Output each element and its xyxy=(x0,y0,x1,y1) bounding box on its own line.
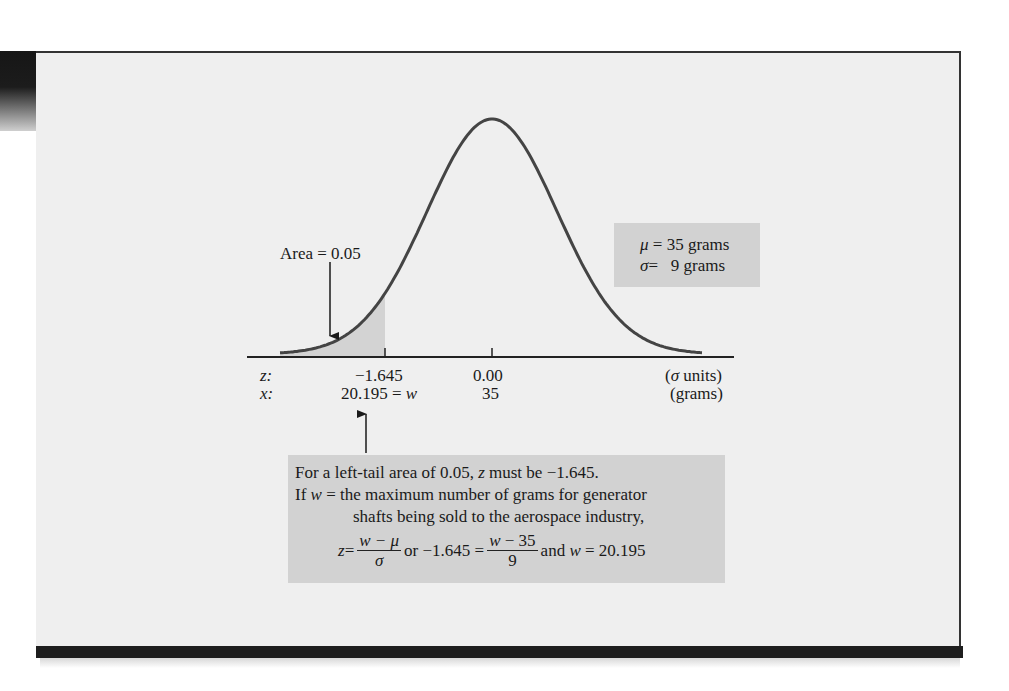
x-row-label: x: xyxy=(260,384,273,404)
fraction-general: w − μ σ xyxy=(357,532,401,571)
x-tick-label-2: 35 xyxy=(482,384,499,404)
note-line-1: For a left-tail area of 0.05, z must be … xyxy=(295,462,725,484)
fraction-specific: w − 35 9 xyxy=(487,532,537,571)
normal-curve-chart xyxy=(0,0,1009,691)
frac2-numerator: w − 35 xyxy=(487,532,537,551)
parameter-box: μ = 35 grams σ= 9 grams xyxy=(614,223,760,287)
z-formula: z = w − μ σ or −1.645 = w − 35 9 and w =… xyxy=(295,528,725,574)
left-tail-shaded-area xyxy=(280,293,385,356)
z-tick-label-2: 0.00 xyxy=(473,366,503,386)
note-line-2: If w = the maximum number of grams for g… xyxy=(295,484,725,506)
z-tick-label-1: −1.645 xyxy=(355,366,403,386)
mu-line: μ = 35 grams xyxy=(640,234,760,255)
area-label: Area = 0.05 xyxy=(280,244,361,264)
explanation-box: For a left-tail area of 0.05, z must be … xyxy=(288,455,725,583)
z-row-label: z: xyxy=(260,366,272,386)
z-units-label: (σ units) xyxy=(665,366,722,386)
sigma-line: σ= 9 grams xyxy=(640,255,760,276)
x-tick-label-1: 20.195 = w xyxy=(341,384,417,404)
note-line-3: shafts being sold to the aerospace indus… xyxy=(295,506,725,528)
x-units-label: (grams) xyxy=(670,384,723,404)
